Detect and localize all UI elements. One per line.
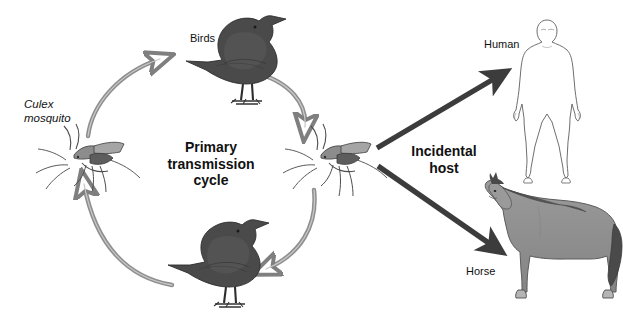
edge-mosquito-left-to-bird-top: [88, 59, 160, 136]
edge-bird-bottom-to-mosquito-left-hl: [84, 184, 172, 285]
label-human: Human: [484, 38, 519, 51]
edge-mosquito-right-to-bird-bottom: [266, 190, 315, 269]
edge-mosquito-left-to-bird-top-hl: [88, 59, 160, 136]
bird-top-illustration: [186, 16, 286, 104]
horse-illustration: [485, 172, 622, 298]
bird-bottom-illustration: [168, 220, 269, 307]
label-culex-mosquito: Culex mosquito: [24, 98, 71, 125]
label-horse: Horse: [466, 265, 495, 278]
label-incidental-host: Incidental host: [398, 143, 490, 176]
transmission-cycle-diagram: Birds Culex mosquito Primary transmissio…: [0, 0, 623, 323]
human-illustration: [514, 20, 581, 183]
edge-bird-bottom-to-mosquito-left: [84, 184, 172, 285]
edge-mosquito-right-to-human: [377, 77, 497, 148]
label-primary-transmission-cycle: Primary transmission cycle: [151, 139, 271, 189]
diagram-canvas: [0, 0, 623, 323]
label-birds: Birds: [190, 32, 215, 45]
culex-mosquito-right-illustration: [283, 124, 387, 196]
edge-mosquito-right-to-horse: [378, 166, 493, 246]
